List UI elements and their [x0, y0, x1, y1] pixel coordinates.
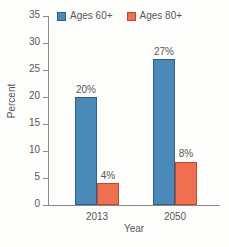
- y-tick-5: 5: [43, 178, 48, 179]
- bar-wrap-2013-ages-80-plus: 4%: [97, 16, 119, 205]
- x-tick-label-2050: 2050: [153, 212, 197, 222]
- x-axis-title: Year: [48, 224, 220, 234]
- y-tick-30: 30: [43, 43, 48, 44]
- bar-group-2050: 27% 8%: [153, 16, 197, 205]
- y-tick-20: 20: [43, 97, 48, 98]
- y-tick-label-35: 35: [29, 10, 40, 20]
- x-axis-line: [48, 205, 220, 206]
- bar-wrap-2050-ages-60-plus: 27%: [153, 16, 175, 205]
- bar-wrap-2050-ages-80-plus: 8%: [175, 16, 197, 205]
- bar-value-2013-ages-60-plus: 20%: [76, 85, 96, 95]
- y-tick-label-15: 15: [29, 118, 40, 128]
- bar-wrap-2013-ages-60-plus: 20%: [75, 16, 97, 205]
- y-tick-10: 10: [43, 151, 48, 152]
- bar-value-2013-ages-80-plus: 4%: [101, 171, 115, 181]
- y-tick-0: 0: [43, 205, 48, 206]
- y-tick-label-25: 25: [29, 64, 40, 74]
- y-tick-25: 25: [43, 70, 48, 71]
- y-tick-15: 15: [43, 124, 48, 125]
- bar-2013-ages-80-plus[interactable]: [97, 183, 119, 205]
- y-tick-label-0: 0: [34, 199, 40, 209]
- x-tick-label-2013: 2013: [75, 212, 119, 222]
- plot-area: 0 5 10 15 20 25 30 35 20%: [48, 16, 220, 205]
- y-tick-35: 35: [43, 16, 48, 17]
- bar-2050-ages-80-plus[interactable]: [175, 162, 197, 205]
- bar-2013-ages-60-plus[interactable]: [75, 97, 97, 205]
- y-tick-label-10: 10: [29, 145, 40, 155]
- bar-value-2050-ages-60-plus: 27%: [154, 47, 174, 57]
- bar-value-2050-ages-80-plus: 8%: [179, 149, 193, 159]
- y-axis-title: Percent: [7, 66, 17, 136]
- y-tick-label-20: 20: [29, 91, 40, 101]
- bar-group-2013: 20% 4%: [75, 16, 119, 205]
- bar-groups: 20% 4% 27% 8%: [49, 16, 220, 205]
- y-tick-label-30: 30: [29, 37, 40, 47]
- bar-chart: Ages 60+ Ages 80+ Percent 0 5 10 15 20 2…: [0, 0, 229, 247]
- y-tick-label-5: 5: [34, 172, 40, 182]
- bar-2050-ages-60-plus[interactable]: [153, 59, 175, 205]
